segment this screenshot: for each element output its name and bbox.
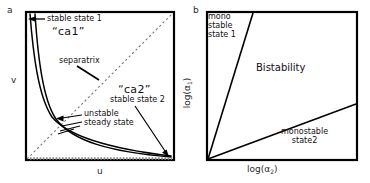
panel-b-x-axis-label: log(α2) (247, 165, 278, 175)
annotation-stable-state-1: stable state 1 (47, 15, 102, 24)
annotation-monostable-state-1: mono stable state 1 (208, 13, 236, 40)
panel-b: b log(α2) log(α1) mono stable state 1 Bi… (185, 0, 370, 183)
annotation-stable-state-2: stable state 2 (110, 96, 165, 105)
panel-a-x-axis-label: u (97, 167, 103, 176)
annotation-monostable-state-2: monostable state2 (281, 128, 328, 146)
annotation-ca1: “ca1” (52, 26, 85, 38)
panel-a-plot (0, 0, 185, 183)
annotation-mono-line-3: state 1 (208, 31, 236, 40)
panel-a-y-axis-label: v (11, 76, 16, 85)
annotation-bistability: Bistability (256, 62, 305, 73)
annotation-monostable-line-2: state2 (281, 137, 328, 146)
figure-container: a (0, 0, 370, 183)
annotation-separatrix: separatrix (59, 57, 100, 66)
panel-b-y-axis-label-pre: log(α (182, 85, 192, 108)
panel-b-x-axis-label-pre: log(α (247, 164, 270, 174)
panel-a: a (0, 0, 185, 183)
annotation-unstable-steady-state: unstable steady state (84, 110, 134, 128)
annotation-unstable-line-2: steady state (84, 119, 134, 128)
panel-b-y-axis-label-post: ) (182, 78, 192, 82)
panel-b-y-axis-label: log(α1) (183, 78, 193, 109)
panel-b-y-axis-label-subscript: 1 (186, 81, 193, 85)
panel-b-x-axis-label-post: ) (274, 164, 278, 174)
